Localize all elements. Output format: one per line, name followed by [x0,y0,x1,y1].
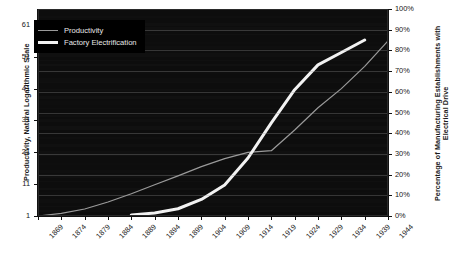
x-tick-label: 1934 [351,223,368,240]
x-tick-label: 1909 [234,223,251,240]
left-tick-mark [34,152,37,153]
x-tick-label: 1889 [141,223,158,240]
right-tick-mark [389,71,392,72]
texture-band [38,64,388,66]
texture-band [38,188,388,190]
left-tick-label: 51 [6,53,30,61]
right-tick-mark [389,30,392,31]
right-tick-label: 80% [395,46,425,54]
right-tick-mark [389,154,392,155]
x-tick-label: 1914 [258,223,275,240]
right-tick-label: 40% [395,129,425,137]
x-tick-label: 1929 [328,223,345,240]
left-tick-label: 21 [6,148,30,156]
x-tick-mark [365,217,366,220]
x-tick-mark [61,217,62,220]
left-tick-label: 61 [6,21,30,29]
x-tick-label: 1899 [188,223,205,240]
left-tick-mark [34,89,37,90]
right-tick-mark [389,133,392,134]
x-tick-mark [108,217,109,220]
x-tick-mark [341,217,342,220]
texture-band [38,101,388,105]
left-tick-mark [34,120,37,121]
gridline [38,92,388,93]
right-tick-label: 60% [395,88,425,96]
texture-band [38,181,388,182]
texture-band [38,82,388,83]
legend-swatch-icon [38,41,58,44]
chart-legend: ProductivityFactory Electrification [34,20,145,53]
x-tick-mark [295,217,296,220]
right-tick-mark [389,50,392,51]
x-tick-mark [318,217,319,220]
x-tick-label: 1939 [374,223,391,240]
x-tick-label: 1924 [304,223,321,240]
texture-band [38,108,388,109]
texture-band [38,119,388,122]
right-tick-mark [389,175,392,176]
right-tick-mark [389,195,392,196]
legend-item: Productivity [38,24,137,36]
texture-band [38,163,388,165]
x-tick-label: 1874 [71,223,88,240]
texture-band [38,60,388,61]
x-tick-label: 1919 [281,223,298,240]
left-tick-label: 31 [6,116,30,124]
texture-band [38,53,388,57]
left-tick-label: 1 [6,212,30,220]
x-tick-mark [155,217,156,220]
left-tick-mark [34,216,37,217]
right-tick-mark [389,92,392,93]
texture-band [38,144,388,147]
x-tick-label: 1884 [118,223,135,240]
texture-band [38,126,388,130]
x-tick-mark [38,217,39,220]
left-tick-mark [34,184,37,185]
texture-band [38,192,388,195]
x-tick-label: 1879 [94,223,111,240]
x-tick-label: 1894 [164,223,181,240]
right-tick-mark [389,9,392,10]
x-tick-label: 1944 [398,223,415,240]
texture-band [38,16,388,18]
x-tick-mark [178,217,179,220]
texture-band [38,155,388,156]
texture-band [38,96,388,99]
x-tick-mark [248,217,249,220]
texture-band [38,170,388,173]
x-tick-label: 1869 [48,223,65,240]
right-tick-label: 90% [395,26,425,34]
texture-band [38,206,388,207]
right-tick-label: 20% [395,171,425,179]
x-tick-mark [85,217,86,220]
texture-band [38,115,388,117]
right-tick-label: 30% [395,150,425,158]
texture-band [38,210,388,212]
texture-band [38,71,388,74]
right-axis-title: Percentage of Manufacturing Establishmen… [434,23,450,203]
right-tick-label: 10% [395,191,425,199]
x-tick-mark [201,217,202,220]
legend-label: Factory Electrification [64,38,137,47]
texture-band [38,89,388,91]
right-tick-mark [389,113,392,114]
x-tick-mark [225,217,226,220]
right-tick-label: 100% [395,5,425,13]
right-tick-label: 70% [395,67,425,75]
texture-band [38,9,388,10]
right-tick-label: 0% [395,212,425,220]
left-tick-label: 41 [6,85,30,93]
legend-label: Productivity [64,26,103,35]
right-tick-mark [389,216,392,217]
x-tick-mark [271,217,272,220]
bottom-axis-line [37,216,389,217]
left-tick-label: 11 [6,180,30,188]
x-tick-label: 1904 [211,223,228,240]
left-tick-mark [34,57,37,58]
texture-band [38,174,388,178]
x-tick-mark [388,217,389,220]
right-tick-label: 50% [395,109,425,117]
texture-band [38,137,388,139]
